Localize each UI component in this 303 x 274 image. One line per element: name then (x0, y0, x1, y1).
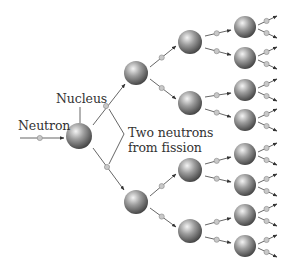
gen2-neutron-neutron-icon (159, 184, 164, 189)
gen4-neutron-neutron-icon (264, 157, 269, 162)
nucleus-gen4 (234, 79, 256, 101)
nucleus-label: Nucleus (56, 92, 107, 106)
gen2-neutron-neutron-icon (159, 55, 164, 60)
gen3-neutron-neutron-icon (214, 31, 219, 36)
bracket-line (109, 109, 124, 164)
gen4-neutron-neutron-icon (264, 188, 269, 193)
nucleus-gen2 (124, 190, 148, 214)
gen4-neutron-neutron-icon (264, 123, 269, 128)
gen4-neutron-neutron-icon (264, 145, 269, 150)
gen3-neutron-neutron-icon (214, 93, 219, 98)
gen3-neutron-neutron-icon (214, 110, 219, 115)
nucleus-gen3 (178, 219, 202, 243)
gen4-neutron-neutron-icon (264, 176, 269, 181)
gen2-neutron-neutron-icon (159, 214, 164, 219)
fission-neutrons-label-line2: from fission (128, 141, 202, 155)
nucleus-gen4 (234, 47, 256, 69)
fission-neutron-down-icon (104, 164, 109, 169)
gen3-neutron-neutron-icon (214, 219, 219, 224)
nucleus-gen4 (234, 109, 256, 131)
nucleus-gen4 (234, 204, 256, 226)
nucleus-gen4 (234, 174, 256, 196)
nucleus-gen4 (234, 143, 256, 165)
gen4-neutron-neutron-icon (264, 30, 269, 35)
nucleus-gen3 (178, 158, 202, 182)
nucleus-gen3 (178, 30, 202, 54)
gen3-neutron-neutron-icon (214, 237, 219, 242)
gen4-neutron-neutron-icon (264, 81, 269, 86)
nucleus-gen2 (124, 61, 148, 85)
gen3-neutron-neutron-icon (214, 176, 219, 181)
gen3-neutron-neutron-icon (214, 49, 219, 54)
neutron-label: Neutron (18, 119, 70, 133)
gen4-neutron-neutron-icon (264, 111, 269, 116)
gen4-neutron-neutron-icon (264, 49, 269, 54)
nucleus-gen4 (234, 16, 256, 38)
gen4-neutron-neutron-icon (264, 237, 269, 242)
gen4-neutron-neutron-icon (264, 249, 269, 254)
nucleus-gen4 (234, 235, 256, 257)
gen4-neutron-neutron-icon (264, 61, 269, 66)
gen3-neutron-neutron-icon (214, 158, 219, 163)
incoming-neutron-neutron-icon (37, 135, 42, 140)
gen2-neutron-neutron-icon (159, 85, 164, 90)
nucleus-gen3 (178, 91, 202, 115)
gen4-neutron-neutron-icon (264, 93, 269, 98)
gen4-neutron-neutron-icon (264, 218, 269, 223)
fission-neutrons-label-line1: Two neutrons (128, 126, 213, 140)
gen4-neutron-neutron-icon (264, 206, 269, 211)
gen4-neutron-neutron-icon (264, 18, 269, 23)
